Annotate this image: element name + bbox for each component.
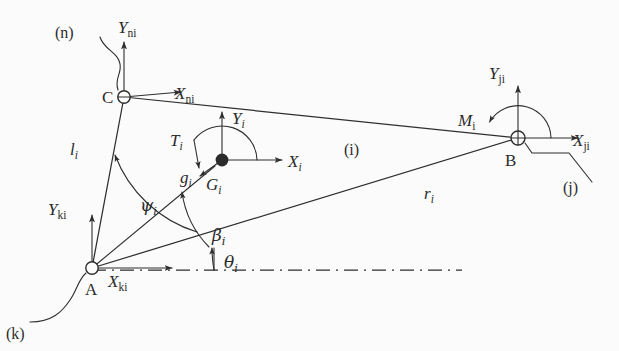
- axis-label-Yki: Yki: [48, 200, 66, 221]
- frame-tag-j: (j): [563, 179, 578, 197]
- load-label-Mi: Mi: [457, 111, 475, 132]
- axis-label-Xji: Xji: [572, 131, 590, 153]
- kinematic-diagram-svg: C Xni Yni (n) A Xki Yki (k) B Xji Yji (j…: [0, 0, 619, 351]
- leader-line-n: [100, 37, 120, 90]
- frame-tag-k: (k): [6, 325, 25, 343]
- joint-A-group[interactable]: [30, 215, 172, 322]
- length-label-li: li: [70, 140, 78, 161]
- load-label-gi: gi: [180, 168, 192, 189]
- link-body-outline: [92, 97, 518, 268]
- load-label-Ti: Ti: [170, 131, 183, 152]
- diagram-canvas: C Xni Yni (n) A Xki Yki (k) B Xji Yji (j…: [0, 0, 619, 351]
- length-label-ri: ri: [424, 184, 434, 205]
- edge-A-to-C: [92, 97, 124, 268]
- edge-A-to-B: [92, 138, 518, 268]
- point-label-A: A: [85, 280, 98, 299]
- axis-label-Xki: Xki: [107, 272, 127, 293]
- axis-label-Yni: Yni: [118, 18, 136, 39]
- center-of-mass-marker[interactable]: [216, 154, 229, 167]
- torque-arc-Ti-tail: [194, 140, 199, 168]
- angle-label-psi-i: ψi: [140, 195, 157, 218]
- axis-label-Xi: Xi: [287, 152, 302, 173]
- axis-Xni-arrow: [124, 92, 181, 97]
- angle-arcs-group: [115, 155, 214, 270]
- axis-label-Xni: Xni: [174, 84, 194, 105]
- joint-marker-A[interactable]: [86, 262, 98, 274]
- point-label-B: B: [505, 151, 516, 170]
- angle-arc-psi-i: [115, 155, 197, 232]
- axis-label-Yji: Yji: [489, 64, 505, 86]
- leader-line-k: [30, 273, 86, 322]
- axis-label-Yi: Yi: [232, 109, 245, 130]
- point-label-C: C: [102, 88, 113, 107]
- point-label-Gi: Gi: [206, 175, 221, 196]
- body-tag-i: (i): [344, 141, 359, 159]
- angle-label-theta-i: θi: [224, 252, 238, 275]
- frame-tag-n: (n): [55, 24, 74, 42]
